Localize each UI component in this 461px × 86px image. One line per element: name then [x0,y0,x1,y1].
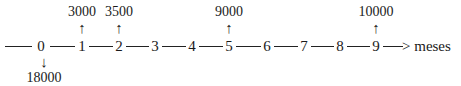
axis-segment [274,46,298,47]
axis-segment [50,46,75,47]
axis-segment [5,46,32,47]
axis-segment [89,46,113,47]
inflow-amount-period-5: 9000 [204,4,254,20]
axis-segment [199,46,223,47]
axis-segment [383,46,403,47]
axis-unit-label: > meses [402,37,451,55]
up-arrow-icon: ↑ [222,20,236,36]
axis-segment [162,46,186,47]
period-label-5: 5 [222,37,236,55]
inflow-amount-period-9: 10000 [351,4,401,20]
axis-segment [126,46,149,47]
period-label-7: 7 [297,37,311,55]
outflow-amount-period-0: 18000 [19,70,69,86]
down-arrow-icon: ↓ [37,54,51,70]
period-label-2: 2 [112,37,126,55]
axis-segment [347,46,370,47]
period-label-4: 4 [185,37,199,55]
axis-segment [311,46,334,47]
up-arrow-icon: ↑ [369,20,383,36]
up-arrow-icon: ↑ [112,20,126,36]
period-label-6: 6 [260,37,274,55]
period-label-0: 0 [34,37,48,55]
axis-segment [236,46,261,47]
inflow-amount-period-2: 3500 [94,4,144,20]
period-label-3: 3 [148,37,162,55]
period-label-1: 1 [75,37,89,55]
period-label-9: 9 [369,37,383,55]
up-arrow-icon: ↑ [75,20,89,36]
period-label-8: 8 [333,37,347,55]
cash-flow-diagram: 0 1 2 3 4 5 6 7 8 9 > meses 3000 ↑ 3500 … [0,0,461,86]
